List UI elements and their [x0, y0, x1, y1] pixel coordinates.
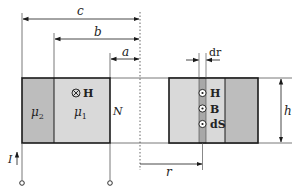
h-field-label-left: H [83, 87, 93, 100]
ds-out-of-page-icon [199, 120, 206, 127]
dimension-h-label: h [284, 104, 292, 118]
dr-label: dr [209, 46, 222, 59]
ds-label: dS [210, 118, 226, 131]
dimension-r-label: r [166, 165, 173, 179]
h-field-label-right: H [210, 87, 220, 100]
mu1-region-left [54, 78, 110, 143]
h-out-of-page-icon [199, 89, 206, 96]
terminal-right [108, 181, 113, 186]
mu2-region-right [225, 78, 258, 143]
current-label: I [7, 153, 13, 166]
dimension-b-label: b [94, 25, 102, 39]
b-out-of-page-icon [199, 105, 206, 112]
diagram-canvas: c b a μ2 μ1 H N I [0, 0, 303, 192]
dimension-a-label: a [122, 45, 129, 59]
terminal-left [20, 181, 25, 186]
turns-label: N [112, 105, 123, 118]
b-field-label: B [210, 103, 219, 116]
dimension-c-label: c [77, 4, 84, 18]
toroid-diagram: c b a μ2 μ1 H N I [0, 0, 303, 192]
